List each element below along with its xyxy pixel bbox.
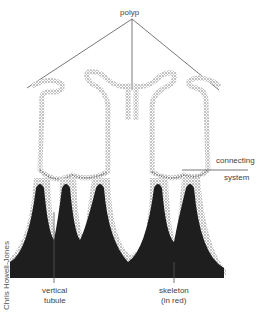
skeleton <box>10 184 224 278</box>
tubule-label: tubule <box>44 296 66 305</box>
system-label: system <box>224 173 249 182</box>
image-credit: Chris Howell-Jones <box>2 241 11 310</box>
in-red-label: (in red) <box>161 296 186 305</box>
skeleton-label: skeleton <box>159 286 189 295</box>
connecting-label: connecting <box>216 156 255 165</box>
polyp-left <box>32 72 128 179</box>
polyp-label: polyp <box>120 8 139 17</box>
vertical-label: vertical <box>42 286 67 295</box>
polyp-right <box>136 73 220 178</box>
